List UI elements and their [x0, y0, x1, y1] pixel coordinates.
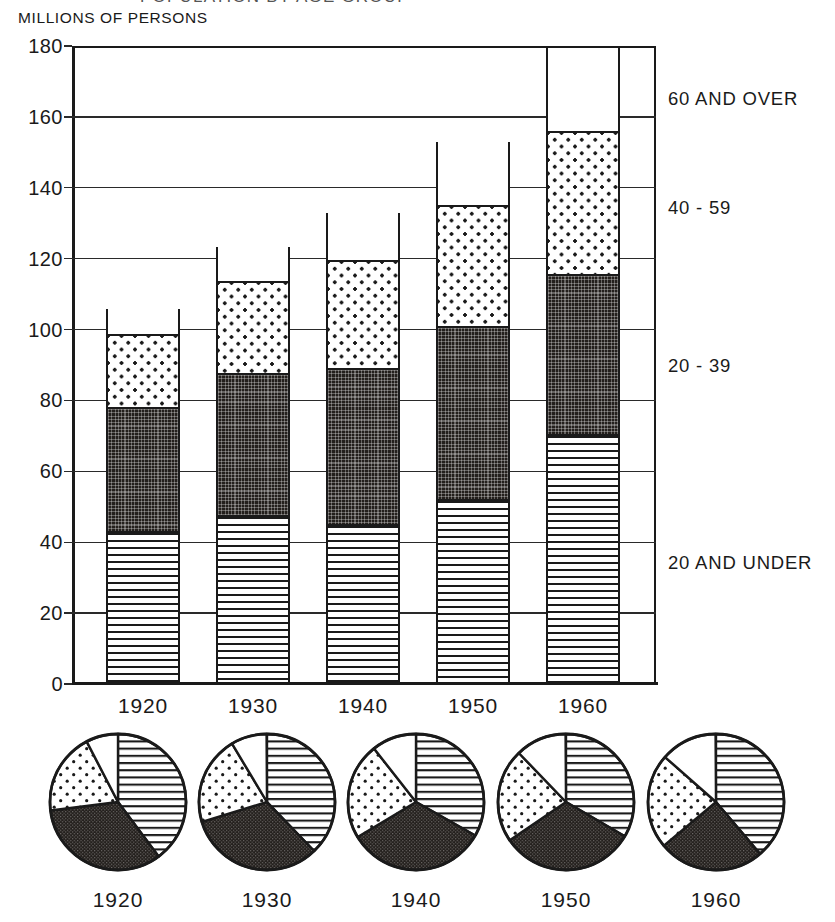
bar-chart-plot-area: 020406080100120140160180 [72, 46, 656, 684]
legend-label-a40_59: 40 - 59 [668, 197, 731, 219]
bar-segment-1920-60-and-over [108, 308, 178, 336]
pie-year-label-1920: 1920 [38, 888, 198, 912]
bar-1950 [436, 142, 510, 684]
bar-segment-1960-40---59 [548, 133, 618, 277]
figure-root: POPULATION BY AGE GROUP MILLIONS OF PERS… [0, 0, 835, 922]
pie-svg-1950 [486, 726, 646, 882]
pie-year-label-1960: 1960 [636, 888, 796, 912]
bar-segment-1950-40---59 [438, 207, 508, 328]
bar-segment-1940-40---59 [328, 262, 398, 370]
x-axis-label-1930: 1930 [228, 694, 278, 718]
cut-off-title-text: POPULATION BY AGE GROUP [140, 0, 410, 7]
pie-svg-1920 [38, 726, 198, 882]
bar-segment-1950-20---39 [438, 328, 508, 502]
pie-chart-1920: 1920 [38, 726, 198, 912]
x-axis-label-1920: 1920 [118, 694, 168, 718]
y-tick-label: 160 [28, 105, 63, 128]
pie-svg-1930 [187, 726, 347, 882]
y-tick-label: 100 [28, 318, 63, 341]
y-axis-caption: MILLIONS OF PERSONS [18, 9, 208, 27]
legend-label-over60: 60 AND OVER [668, 88, 798, 110]
pie-chart-1960: 1960 [636, 726, 796, 912]
pie-svg-1940 [336, 726, 496, 882]
legend-label-a20_39: 20 - 39 [668, 355, 731, 377]
y-tick-mark [64, 329, 72, 330]
cut-off-title: POPULATION BY AGE GROUP [0, 0, 835, 7]
bar-segment-1960-20-and-under [548, 436, 618, 682]
bar-segment-1920-20-and-under [108, 533, 178, 682]
pie-year-label-1930: 1930 [187, 888, 347, 912]
y-tick-mark [64, 116, 72, 117]
y-tick-label: 80 [40, 389, 63, 412]
bar-segment-1930-40---59 [218, 283, 288, 375]
y-tick-label: 0 [51, 673, 63, 696]
y-tick-label: 180 [28, 35, 63, 58]
y-tick-label: 120 [28, 247, 63, 270]
y-tick-label: 40 [40, 531, 63, 554]
bar-segment-1930-20-and-under [218, 517, 288, 682]
pie-year-label-1950: 1950 [486, 888, 646, 912]
bar-1960 [546, 48, 620, 684]
bar-1940 [326, 213, 400, 684]
pie-year-label-1940: 1940 [336, 888, 496, 912]
x-axis-label-1960: 1960 [558, 694, 608, 718]
bar-segment-1940-60-and-over [328, 212, 398, 262]
bar-segment-1960-60-and-over [548, 48, 618, 133]
bar-segment-1950-60-and-over [438, 141, 508, 207]
plot-frame-right [654, 46, 657, 684]
y-tick-mark [64, 612, 72, 613]
bar-1930 [216, 247, 290, 684]
y-tick-mark [64, 683, 72, 684]
bar-1920 [106, 309, 180, 684]
plot-frame-left [72, 46, 75, 684]
bar-segment-1940-20---39 [328, 370, 398, 526]
y-tick-label: 60 [40, 460, 63, 483]
pie-chart-row: 1920 1930 [0, 726, 835, 922]
x-axis-label-1940: 1940 [338, 694, 388, 718]
bar-segment-1930-20---39 [218, 375, 288, 517]
bar-segment-1930-60-and-over [218, 246, 288, 283]
y-tick-mark [64, 400, 72, 401]
y-tick-label: 20 [40, 602, 63, 625]
pie-chart-1940: 1940 [336, 726, 496, 912]
y-tick-mark [64, 258, 72, 259]
y-tick-mark [64, 542, 72, 543]
x-axis-label-1950: 1950 [448, 694, 498, 718]
bar-segment-1920-40---59 [108, 336, 178, 409]
pie-chart-1930: 1930 [187, 726, 347, 912]
legend-label-under20: 20 AND UNDER [668, 552, 812, 574]
pie-chart-1950: 1950 [486, 726, 646, 912]
bar-segment-1920-20---39 [108, 409, 178, 533]
bar-segment-1940-20-and-under [328, 526, 398, 682]
y-tick-mark [64, 45, 72, 46]
pie-svg-1960 [636, 726, 796, 882]
y-tick-mark [64, 471, 72, 472]
bar-segment-1950-20-and-under [438, 501, 508, 682]
y-tick-mark [64, 187, 72, 188]
bar-segment-1960-20---39 [548, 276, 618, 436]
y-tick-label: 140 [28, 176, 63, 199]
